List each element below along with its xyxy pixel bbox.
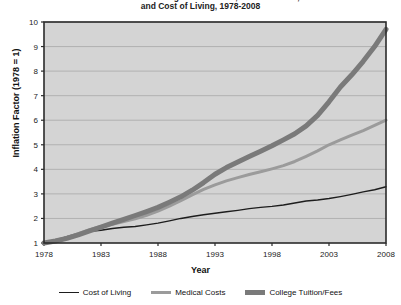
x-axis-tick-label: 1998 bbox=[263, 250, 281, 259]
x-axis-tick-label: 2008 bbox=[377, 250, 395, 259]
legend-label: Medical Costs bbox=[175, 288, 225, 297]
y-axis-tick-label: 3 bbox=[34, 190, 39, 199]
legend-swatch-line bbox=[245, 290, 265, 295]
y-axis-tick-label: 10 bbox=[29, 18, 38, 27]
legend-item[interactable]: Medical Costs bbox=[151, 288, 225, 297]
x-axis-title: Year bbox=[0, 265, 401, 275]
y-axis-tick-label: 6 bbox=[34, 116, 39, 125]
y-axis-tick-label: 2 bbox=[34, 214, 39, 223]
y-axis-tick-label: 9 bbox=[34, 43, 39, 52]
plot-area: 123456789101978198319881993199820032008 bbox=[0, 0, 401, 305]
x-axis-tick-label: 1993 bbox=[206, 250, 224, 259]
legend-item[interactable]: College Tuition/Fees bbox=[245, 288, 342, 297]
legend-swatch-line bbox=[59, 292, 79, 294]
chart-container: Increases in College Tuition/Fees, Medic… bbox=[0, 0, 401, 305]
y-axis-tick-label: 1 bbox=[34, 239, 39, 248]
y-axis-tick-label: 8 bbox=[34, 67, 39, 76]
x-axis-tick-label: 2003 bbox=[320, 250, 338, 259]
legend-swatch-line bbox=[151, 291, 171, 294]
legend-label: College Tuition/Fees bbox=[269, 288, 342, 297]
y-axis-tick-label: 5 bbox=[34, 141, 39, 150]
x-axis-tick-label: 1988 bbox=[149, 250, 167, 259]
legend-item[interactable]: Cost of Living bbox=[59, 288, 131, 297]
y-axis-tick-label: 4 bbox=[34, 165, 39, 174]
legend-label: Cost of Living bbox=[83, 288, 131, 297]
chart-legend: Cost of LivingMedical CostsCollege Tuiti… bbox=[0, 288, 401, 297]
x-axis-tick-label: 1978 bbox=[35, 250, 53, 259]
y-axis-tick-label: 7 bbox=[34, 92, 39, 101]
plot-background bbox=[44, 22, 386, 243]
x-axis-tick-label: 1983 bbox=[92, 250, 110, 259]
